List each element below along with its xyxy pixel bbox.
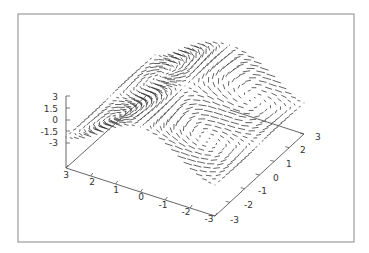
vector — [246, 146, 247, 148]
vector — [153, 78, 154, 79]
vector — [216, 143, 217, 144]
tick-label: -2 — [182, 207, 191, 217]
tick-label: -1 — [258, 186, 267, 196]
vector — [211, 160, 217, 161]
tick-label: 3 — [63, 170, 69, 180]
vector — [121, 109, 127, 110]
vector — [199, 78, 200, 81]
vector — [290, 107, 291, 109]
vector — [244, 113, 250, 114]
tick-label: -2 — [244, 200, 253, 210]
vector — [153, 70, 159, 71]
vector — [109, 118, 110, 119]
vector — [124, 91, 125, 93]
vector — [216, 47, 217, 51]
vector — [154, 123, 155, 126]
tick-label: 3 — [52, 92, 58, 102]
tick-label: -1 — [159, 200, 168, 210]
vector — [171, 92, 172, 95]
vector — [160, 68, 166, 69]
tick-label: 2 — [89, 177, 95, 187]
vector — [260, 104, 261, 105]
vector — [250, 119, 256, 120]
vector — [205, 155, 211, 156]
vector — [228, 81, 229, 85]
vector — [80, 130, 81, 132]
vector — [183, 126, 184, 130]
tick-label: 1 — [286, 159, 292, 169]
tick-label: -3 — [49, 138, 58, 148]
tick-label: 0 — [52, 115, 58, 125]
tick-label: 0 — [138, 192, 144, 202]
tick-label: 3 — [315, 132, 321, 142]
vector — [186, 59, 187, 63]
tick-label: -3 — [230, 215, 239, 225]
vector-field-plot: 31.50-1.5-3 3210-1-2-3 -3-2-10123 — [0, 0, 369, 253]
tick-label: 0 — [273, 173, 279, 183]
tick-label: -1.5 — [40, 127, 58, 137]
tick-label: 2 — [300, 145, 306, 155]
tick-label: 1.5 — [44, 104, 58, 114]
vector — [194, 100, 200, 101]
tick-label: 1 — [113, 185, 119, 195]
tick-label: -3 — [205, 214, 214, 224]
